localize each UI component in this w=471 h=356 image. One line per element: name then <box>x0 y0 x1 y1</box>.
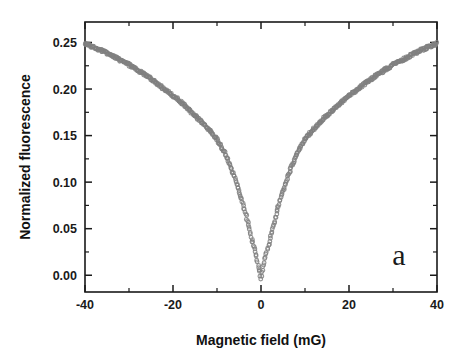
y-tick-label: 0.10 <box>53 176 77 190</box>
y-axis-title: Normalized fluorescence <box>17 74 33 240</box>
y-tick-label: 0.25 <box>53 36 77 50</box>
y-tick-label: 0.05 <box>53 222 77 236</box>
x-tick-label: 40 <box>430 298 444 312</box>
x-tick-label: -40 <box>76 298 94 312</box>
y-tick-label: 0.15 <box>53 129 77 143</box>
panel-label-a: a <box>392 238 405 271</box>
y-tick-label: 0.20 <box>53 83 77 97</box>
x-tick-label: 0 <box>258 298 265 312</box>
x-tick-label: 20 <box>342 298 356 312</box>
chart-canvas: -40-2002040 0.000.050.100.150.200.25 Mag… <box>0 0 471 356</box>
y-tick-label: 0.00 <box>53 269 77 283</box>
x-axis-title: Magnetic field (mG) <box>196 332 326 348</box>
x-tick-label: -20 <box>164 298 182 312</box>
figure-panel-a: -40-2002040 0.000.050.100.150.200.25 Mag… <box>0 0 471 356</box>
